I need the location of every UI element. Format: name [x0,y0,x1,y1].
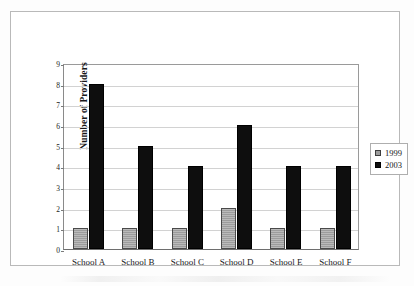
y-axis-tick-mark [61,251,64,252]
bar-group [212,65,261,249]
y-axis-tick-label: 6 [56,123,60,131]
x-axis-label: School B [121,257,154,267]
bar-group [163,65,212,249]
chart-legend: 19992003 [370,143,408,175]
bar-1999-school-b [122,228,137,249]
bar-2003-school-b [138,146,153,249]
bar-2003-school-c [188,166,203,249]
bar-2003-school-d [237,125,252,249]
bar-2003-school-f [336,166,351,249]
x-axis-label: School D [220,257,254,267]
x-axis-label: School E [270,257,303,267]
legend-label: 2003 [385,161,402,170]
bar-group [261,65,310,249]
y-axis-tick-label: 7 [56,103,60,111]
y-axis-tick-label: 5 [56,144,60,152]
bar-group [113,65,162,249]
y-axis-tick-label: 4 [56,165,60,173]
legend-item: 1999 [375,147,402,159]
plot-area: Number of Providers 0123456789 School AS… [63,64,359,250]
x-axis-label: School F [319,257,351,267]
y-axis-tick-label: 3 [56,185,60,193]
legend-label: 1999 [385,149,402,158]
bar-group [64,65,113,249]
y-axis-tick-label: 0 [56,247,60,255]
black-swatch [375,162,381,168]
bar-1999-school-a [73,228,88,249]
bar-1999-school-e [270,228,285,249]
figure-border: Number of Providers 0123456789 School AS… [10,11,400,266]
bar-chart-figure: Number of Providers 0123456789 School AS… [0,0,414,286]
y-axis-tick-label: 2 [56,206,60,214]
y-axis-tick-label: 8 [56,82,60,90]
y-axis-tick-label: 9 [56,61,60,69]
bar-1999-school-f [320,228,335,249]
bar-2003-school-a [89,84,104,249]
bar-1999-school-d [221,208,236,249]
y-axis-tick-label: 1 [56,227,60,235]
bar-2003-school-e [286,166,301,249]
x-axis-label: School C [171,257,204,267]
x-axis-label: School A [72,257,105,267]
legend-item: 2003 [375,159,402,171]
bar-group [311,65,360,249]
gray-hatch-swatch [375,150,381,156]
scan-artifact [60,276,390,282]
bar-1999-school-c [172,228,187,249]
